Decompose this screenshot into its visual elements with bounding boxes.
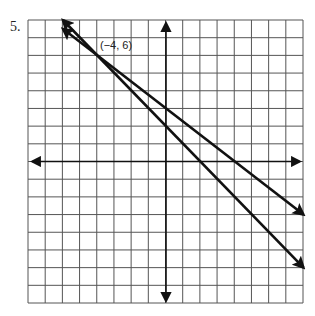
axes: [32, 23, 300, 301]
coordinate-graph: (−4, 6): [0, 0, 315, 316]
point-label: (−4, 6): [100, 39, 132, 51]
